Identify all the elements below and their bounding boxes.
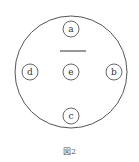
node-label-c: c bbox=[68, 111, 73, 121]
figure-caption: 図2 bbox=[0, 145, 139, 156]
diagram-canvas: a b c d e bbox=[0, 0, 139, 162]
node-label-b: b bbox=[111, 67, 117, 77]
node-b: b bbox=[106, 64, 122, 80]
node-c: c bbox=[63, 108, 79, 124]
node-d: d bbox=[22, 64, 38, 80]
node-label-e: e bbox=[68, 67, 73, 77]
node-e: e bbox=[63, 64, 79, 80]
node-a: a bbox=[63, 21, 79, 37]
node-label-a: a bbox=[68, 24, 74, 34]
node-label-d: d bbox=[27, 67, 33, 77]
